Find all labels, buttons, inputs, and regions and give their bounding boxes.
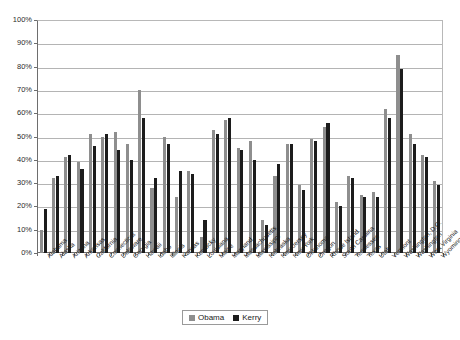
bar-kerry-mississippi	[253, 160, 256, 253]
bar-group	[345, 20, 357, 253]
x-axis-category-label: Mississippi	[255, 255, 260, 260]
bar-group	[308, 20, 320, 253]
bar-group	[49, 20, 61, 253]
bar-kerry-massachusetts	[240, 150, 243, 253]
bar-obama-california	[89, 134, 92, 253]
y-axis-tick-label: 50%	[0, 133, 32, 141]
x-axis-category-label: Utah	[378, 255, 383, 260]
bar-group	[406, 20, 418, 253]
bar-group	[320, 20, 332, 253]
x-axis-category-label: New Jersey	[280, 255, 285, 260]
x-axis-category-label: Washington, D.C.	[403, 255, 408, 260]
bar-group	[295, 20, 307, 253]
bar-group	[381, 20, 393, 253]
y-axis-tick-label: 30%	[0, 179, 32, 187]
bar-group	[185, 20, 197, 253]
bar-kerry-maine	[216, 134, 219, 253]
x-axis-category-label: Illinois	[169, 255, 174, 260]
bar-group	[394, 20, 406, 253]
x-axis-category-label: Nebraska	[268, 255, 273, 260]
x-axis-category-label: Maryland	[231, 255, 236, 260]
x-axis-category-label: Georgia	[132, 255, 137, 260]
bar-kerry-oregon	[314, 141, 317, 253]
bar-obama-washington-d-c	[396, 55, 399, 253]
legend-item-label: Obama	[198, 314, 224, 322]
bar-kerry-arizona	[68, 155, 71, 253]
x-axis-category-label: Hawaii	[145, 255, 150, 260]
bar-group	[246, 20, 258, 253]
x-axis-category-label: West Virginia	[428, 255, 433, 260]
bar-group	[418, 20, 430, 253]
x-axis-category-label: Arizona	[71, 255, 76, 260]
y-axis-tick-label: 60%	[0, 109, 32, 117]
bar-group	[135, 20, 147, 253]
x-axis-category-label: Connecticut	[108, 255, 113, 260]
x-axis-category-label: Washington	[415, 255, 420, 260]
x-axis-category-label: Oregon	[317, 255, 322, 260]
bar-chart: 0%10%20%30%40%50%60%70%80%90%100% Alabam…	[0, 0, 460, 340]
y-axis-tick-label: 80%	[0, 63, 32, 71]
bar-obama-vermont	[384, 109, 387, 253]
y-axis-tick-label: 40%	[0, 156, 32, 164]
y-axis-tick-label: 70%	[0, 86, 32, 94]
x-axis-category-label: Maine	[218, 255, 223, 260]
bar-kerry-illinois	[167, 144, 170, 254]
bar-obama-maine	[212, 130, 215, 253]
y-axis-tick-label: 10%	[0, 226, 32, 234]
bar-group	[74, 20, 86, 253]
bar-obama-maryland	[224, 120, 227, 253]
x-axis-category-label: Vermont	[391, 255, 396, 260]
x-axis-category-label: Wyoming	[440, 255, 445, 260]
bar-group	[332, 20, 344, 253]
y-axis-tick-label: 20%	[0, 202, 32, 210]
x-axis-category-label: New York	[292, 255, 297, 260]
bar-kerry-hawaii	[142, 118, 145, 253]
bar-group	[357, 20, 369, 253]
x-axis-category-label: Massachusetts	[243, 255, 248, 260]
legend-item-kerry: Kerry	[233, 314, 261, 322]
x-axis-category-label: Arkansas	[83, 255, 88, 260]
legend-item-obama: Obama	[189, 314, 224, 322]
legend-swatch-icon	[233, 315, 239, 321]
bar-group	[369, 20, 381, 253]
x-axis-category-label: Louisiana	[206, 255, 211, 260]
x-axis-category-label: California	[95, 255, 100, 260]
x-axis-category-label: Alabama	[46, 255, 51, 260]
bar-group	[86, 20, 98, 253]
x-axis-category-label: Idaho	[157, 255, 162, 260]
x-axis-category-label: Tennessee	[354, 255, 359, 260]
bar-obama-illinois	[163, 137, 166, 254]
y-axis-tick-label: 100%	[0, 16, 32, 24]
bar-kerry-washington	[413, 144, 416, 254]
x-axis-category-label: Oklahoma	[305, 255, 310, 260]
x-axis-category-label: Texas	[366, 255, 371, 260]
bar-obama-alabama	[40, 230, 43, 253]
bar-group	[62, 20, 74, 253]
chart-legend: ObamaKerry	[182, 310, 268, 325]
bar-group	[283, 20, 295, 253]
bar-group	[148, 20, 160, 253]
x-axis-category-label: South Carolina	[341, 255, 346, 260]
bar-obama-hawaii	[138, 90, 141, 253]
bar-group	[123, 20, 135, 253]
x-axis-category-label: Kentucky	[194, 255, 199, 260]
bar-kerry-washington-d-c	[400, 69, 403, 253]
bar-kerry-delaware	[117, 150, 120, 253]
bar-obama-arkansas	[77, 162, 80, 253]
bar-group	[197, 20, 209, 253]
bar-kerry-rhode-island	[326, 123, 329, 253]
y-axis-tick-label: 90%	[0, 39, 32, 47]
legend-swatch-icon	[189, 315, 195, 321]
bar-group	[99, 20, 111, 253]
bar-group	[271, 20, 283, 253]
bar-kerry-connecticut	[105, 134, 108, 253]
bar-group	[160, 20, 172, 253]
bar-obama-massachusetts	[237, 148, 240, 253]
bar-group	[222, 20, 234, 253]
x-axis-category-label: Alaska	[58, 255, 63, 260]
bar-kerry-alabama	[44, 209, 47, 253]
x-axis-category-label: Delaware	[120, 255, 125, 260]
x-axis-category-label: Rhode Island	[329, 255, 334, 260]
legend-item-label: Kerry	[242, 314, 261, 322]
bar-kerry-california	[93, 146, 96, 253]
